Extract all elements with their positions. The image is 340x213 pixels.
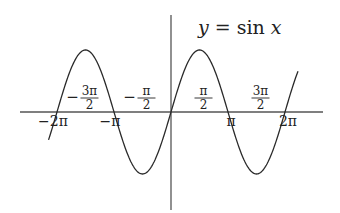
svg-text:−: −	[66, 88, 79, 106]
svg-text:2: 2	[257, 98, 265, 112]
tick-label-below: −2π	[38, 113, 68, 129]
sine-plot: −2π−ππ2π 3π2−π2−π23π2 y = sin x	[0, 0, 340, 213]
tick-labels-below: −2π−ππ2π	[38, 113, 297, 129]
svg-text:2: 2	[200, 98, 208, 112]
svg-text:3π: 3π	[253, 84, 269, 98]
svg-text:π: π	[143, 84, 151, 98]
tick-label-above: π2	[195, 84, 213, 112]
svg-text:3π: 3π	[82, 84, 98, 98]
tick-label-below: π	[226, 113, 235, 129]
tick-labels-above: 3π2−π2−π23π2	[66, 84, 269, 112]
svg-text:π: π	[200, 84, 208, 98]
tick-label-above: 3π2	[252, 84, 270, 112]
tick-label-below: 2π	[279, 113, 297, 129]
svg-text:−: −	[123, 88, 136, 106]
tick-label-above: 3π2−	[66, 84, 98, 112]
tick-label-below: −π	[100, 113, 121, 129]
svg-text:2: 2	[86, 98, 94, 112]
svg-text:2: 2	[143, 98, 151, 112]
tick-label-above: π2−	[123, 84, 155, 112]
chart-title: y = sin x	[197, 16, 282, 38]
